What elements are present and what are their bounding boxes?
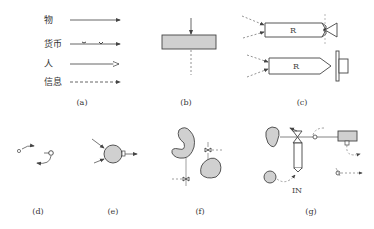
caption-f: (f) [195,207,204,216]
label-in: IN [292,186,302,195]
valve-icon [325,23,337,37]
panel-c: R R (c) [242,14,348,107]
diagram-canvas: 物 货币 人 信息 (a) (b) R R (c) [0,0,374,229]
storage-block [162,35,216,49]
info-arrow-in-3 [247,55,268,62]
caption-e: (e) [108,207,119,216]
input-arrow-1 [92,139,104,148]
input-arrow-2 [94,159,104,163]
caption-d: (d) [32,207,43,216]
info-curve-1 [313,128,324,135]
panel-b: (b) [162,18,216,107]
panel-g: IN (g) [264,127,362,216]
source-node [17,149,20,152]
process-label-r-top: R [290,26,297,35]
blob-shape-1 [172,128,195,158]
blob-source [266,127,279,147]
output-port [122,151,125,156]
panel-f: (f) [172,128,222,216]
circle-source [264,171,276,183]
legend-label-people: 人 [44,59,53,69]
valve-icon-2 [205,148,211,152]
curved-arrow-out [22,146,34,149]
info-curve-2 [347,145,360,155]
caption-g: (g) [305,207,316,216]
node-circle [104,145,122,163]
machine-port [345,141,349,145]
caption-b: (b) [180,98,191,107]
info-arrow-in-2 [243,32,264,38]
info-curve-3 [277,175,295,182]
legend-label-info: 信息 [44,76,62,87]
legend-label-money: 货币 [44,38,62,49]
panel-e: (e) [92,139,137,216]
process-box-bottom [269,58,331,74]
caption-a: (a) [76,98,87,107]
plate-icon [336,51,339,81]
info-arrow-in-1 [242,16,264,25]
panel-a-legend: 物 货币 人 信息 (a) [44,14,120,107]
target-node [49,151,54,156]
info-arrow-in-4 [247,69,268,77]
plate-block-icon [339,59,348,73]
blob-shape-2 [201,158,221,178]
process-label-r-bottom: R [293,62,300,71]
legend-label-goods: 物 [44,14,53,25]
machine-block [338,131,357,141]
cylinder-tank [294,143,302,168]
curved-arrow-return [37,156,51,163]
caption-c: (c) [297,98,308,107]
sensor-node [313,135,317,139]
panel-d: (d) [17,146,53,216]
